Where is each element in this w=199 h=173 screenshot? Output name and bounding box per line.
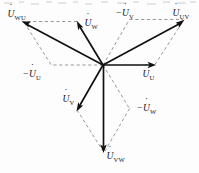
label-u-uv: UUV bbox=[172, 9, 189, 20]
solid-phasor-vectors bbox=[22, 20, 185, 153]
vector-u-v bbox=[80, 65, 103, 105]
dashed-uv-to-uvw bbox=[77, 110, 103, 151]
label-u-uv-subscript: UV bbox=[179, 13, 189, 20]
arrowhead-u-uv bbox=[176, 20, 185, 28]
label-neg-u-v: −UV bbox=[116, 9, 134, 20]
label-u-wu-subscript: WU bbox=[14, 14, 25, 21]
label-neg-u-w-symbol: U bbox=[143, 104, 150, 114]
label-neg-u-v-sign: − bbox=[116, 8, 121, 18]
label-neg-u-w-subscript: W bbox=[150, 108, 156, 115]
label-neg-u-w: −UW bbox=[137, 104, 156, 115]
label-u-w-subscript: W bbox=[91, 23, 97, 30]
arrowhead-u-w bbox=[77, 21, 84, 30]
label-neg-u-u-subscript: U bbox=[36, 74, 41, 81]
label-neg-u-w-sign: − bbox=[137, 103, 142, 113]
label-neg-u-u: −UU bbox=[23, 70, 41, 81]
label-u-w-symbol: U bbox=[85, 19, 92, 29]
label-neg-u-u-symbol: U bbox=[29, 70, 36, 80]
label-neg-u-v-subscript: V bbox=[129, 13, 134, 20]
label-u-u: UU bbox=[142, 70, 154, 81]
label-u-uv-symbol: U bbox=[173, 9, 180, 19]
phasor-vector-canvas bbox=[0, 0, 199, 173]
label-u-w: UW bbox=[84, 19, 98, 30]
label-u-v-subscript: V bbox=[69, 99, 74, 106]
dashed-neguu-to-uwu bbox=[24, 22, 52, 65]
label-u-u-subscript: U bbox=[149, 74, 154, 81]
label-u-vw-symbol: U bbox=[107, 152, 114, 162]
label-u-v: UV bbox=[62, 95, 74, 106]
label-u-u-symbol: U bbox=[143, 70, 150, 80]
label-u-wu: UWU bbox=[7, 10, 26, 21]
dashed-origin-to-neguw bbox=[103, 65, 130, 109]
label-u-vw-subscript: VW bbox=[113, 156, 124, 163]
phasor-diagram-figure: UWU UW −UV UUV −UU UU UV −UW UVW bbox=[0, 0, 199, 173]
label-u-vw: UVW bbox=[106, 152, 125, 163]
label-neg-u-u-sign: − bbox=[23, 69, 28, 79]
label-u-v-symbol: U bbox=[63, 95, 70, 105]
label-neg-u-v-symbol: U bbox=[122, 9, 129, 19]
label-u-wu-symbol: U bbox=[8, 10, 15, 20]
